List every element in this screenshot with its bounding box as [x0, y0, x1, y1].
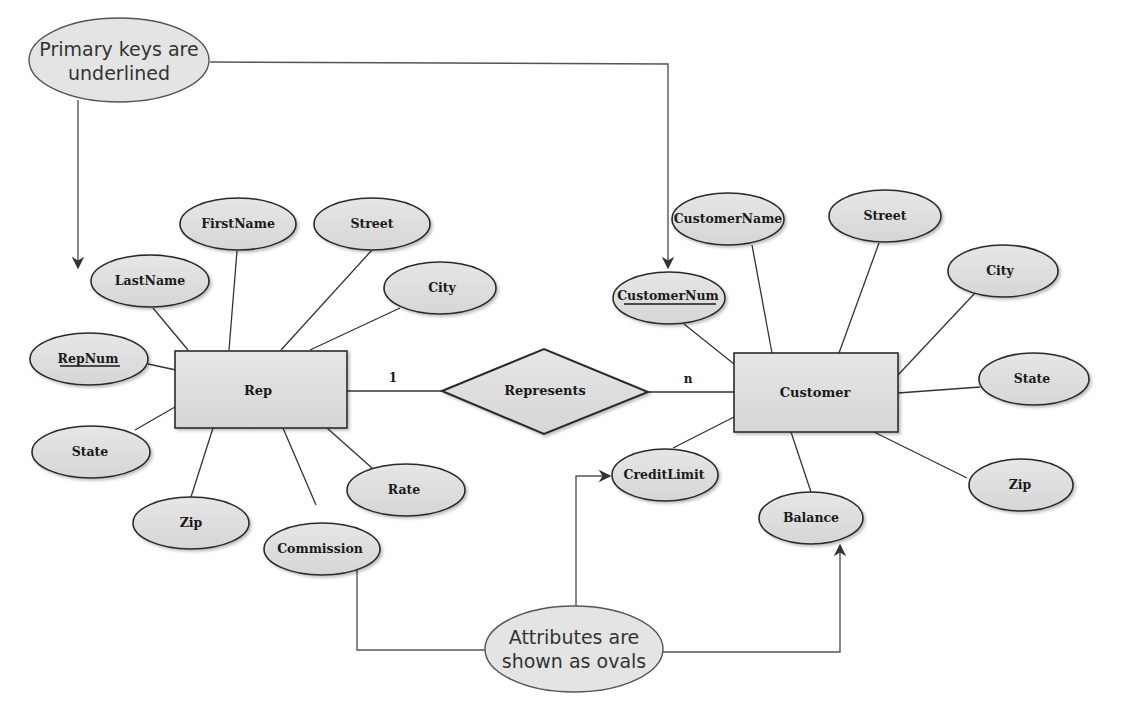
callout-attributes-line2: shown as ovals	[502, 650, 646, 672]
attr-label-zip: Zip	[180, 515, 203, 530]
entity-label-rep: Rep	[244, 383, 272, 398]
arrow-to-balance	[663, 545, 840, 652]
relationship-represents[interactable]: Represents	[442, 349, 648, 434]
attr-label-city: City	[428, 280, 456, 295]
callout-primary-keys-line1: Primary keys are	[39, 38, 198, 60]
entity-rep[interactable]: Rep	[175, 351, 347, 428]
attr-label-commission: Commission	[277, 541, 363, 556]
attr-label-zip-customer: Zip	[1009, 477, 1032, 492]
attr-label-street: Street	[350, 216, 393, 231]
callout-primary-keys: Primary keys are underlined	[29, 18, 209, 102]
cardinality-many: n	[684, 372, 693, 386]
cardinality-one: 1	[389, 371, 397, 385]
attr-label-rate: Rate	[388, 482, 421, 497]
attr-label-lastname: LastName	[115, 273, 185, 288]
callout-attributes: Attributes are shown as ovals	[485, 606, 663, 692]
attr-label-street-customer: Street	[863, 208, 906, 223]
attr-label-city-customer: City	[986, 263, 1014, 278]
attr-label-repnum: RepNum	[58, 351, 119, 366]
attr-label-firstname: FirstName	[201, 216, 275, 231]
attr-label-creditlimit: CreditLimit	[623, 467, 704, 482]
attr-label-customername: CustomerName	[674, 211, 783, 226]
callout-attributes-line1: Attributes are	[509, 626, 640, 648]
attr-label-balance: Balance	[783, 510, 839, 525]
attr-label-state-customer: State	[1014, 371, 1051, 386]
relationship-label: Represents	[504, 383, 586, 398]
er-diagram: Primary keys are underlined Attributes a…	[0, 0, 1146, 722]
entity-label-customer: Customer	[780, 385, 851, 400]
entity-customer[interactable]: Customer	[734, 353, 898, 432]
callout-primary-keys-line2: underlined	[68, 62, 170, 84]
arrow-to-creditlimit	[576, 476, 610, 607]
attr-label-state: State	[72, 444, 109, 459]
attr-label-customernum: CustomerNum	[617, 288, 719, 303]
